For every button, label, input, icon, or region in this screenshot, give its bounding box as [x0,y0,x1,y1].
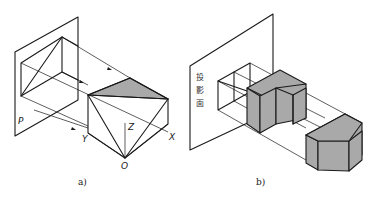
plane-projection-outline [218,63,250,110]
x-axis-label: X [168,132,176,142]
caption-a: a) [78,177,87,187]
plane-label-char-1: 投 [196,72,204,82]
projection-rays [21,37,168,132]
figure-b: 投 影 面 [190,14,362,187]
y-axis-label: Y [82,134,89,144]
projection-plane-p [15,17,78,136]
plane-label-char-2: 影 [196,85,204,95]
pentagonal-prism [306,114,362,171]
plane-label-char-3: 面 [196,99,204,108]
plane-projection-image [21,37,78,96]
figure-a: P X Y Z O a) [15,17,176,187]
origin-label: O [121,161,128,171]
plane-p-label: P [18,116,24,126]
caption-b: b) [256,177,265,187]
object-a [88,78,168,158]
projection-diagram: P X Y Z O a) 投 影 面 [0,0,375,198]
z-axis-label: Z [127,122,135,132]
y-axis [88,133,125,158]
